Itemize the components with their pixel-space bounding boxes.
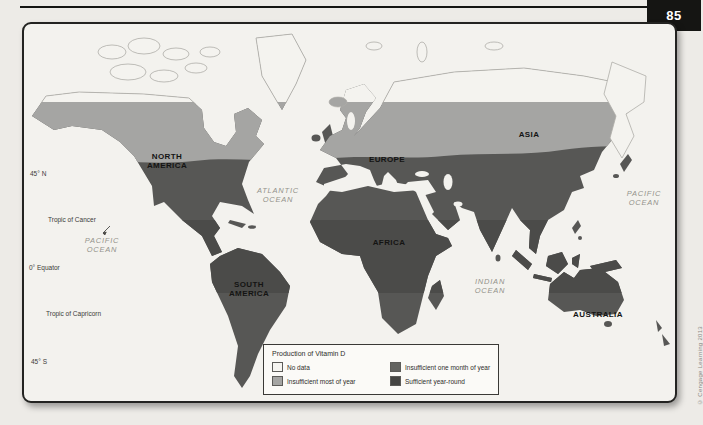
legend-title: Production of Vitamin D bbox=[272, 350, 491, 357]
legend-label-no-data: No data bbox=[287, 364, 310, 371]
legend-swatch-sufficient bbox=[390, 376, 401, 386]
baltic-sea bbox=[347, 112, 355, 130]
legend-swatch-no-data bbox=[272, 362, 283, 372]
top-rule bbox=[20, 6, 648, 8]
legend-grid: No data Insufficient most of year Insuff… bbox=[272, 360, 491, 388]
tropic-cancer-arrow bbox=[103, 226, 110, 235]
legend-swatch-insufficient-most bbox=[272, 376, 283, 386]
legend-label-insufficient-one-month: Insufficient one month of year bbox=[405, 364, 490, 371]
black-sea bbox=[415, 171, 429, 177]
legend-item-sufficient: Sufficient year-round bbox=[390, 376, 491, 386]
zone-sufficient-year-round bbox=[24, 220, 677, 293]
legend-label-insufficient-most: Insufficient most of year bbox=[287, 378, 356, 385]
legend-item-no-data: No data bbox=[272, 362, 390, 372]
vitamin-d-map-figure: 45° N Tropic of Cancer 0° Equator Tropic… bbox=[22, 22, 677, 403]
legend-item-insufficient-one-month: Insufficient one month of year bbox=[390, 362, 491, 372]
legend-label-sufficient: Sufficient year-round bbox=[405, 378, 465, 385]
page-number: 85 bbox=[666, 8, 681, 23]
legend-swatch-insufficient-one-month bbox=[390, 362, 401, 372]
persian-gulf bbox=[454, 202, 463, 207]
hudson-bay bbox=[212, 111, 232, 141]
caspian-sea bbox=[444, 174, 453, 190]
copyright-text: © Cengage Learning 2013 bbox=[697, 326, 703, 405]
legend-item-insufficient-most: Insufficient most of year bbox=[272, 376, 390, 386]
iceland bbox=[329, 97, 347, 107]
zone-no-data bbox=[24, 24, 677, 102]
legend: Production of Vitamin D No data Insuffic… bbox=[264, 345, 498, 394]
